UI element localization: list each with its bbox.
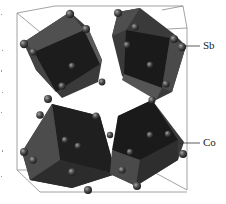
co-label: Co [203,137,216,148]
octahedron-bottom-left [22,104,116,188]
scan-specks [1,14,3,177]
sb-label: Sb [203,40,215,51]
unit-cell-diagram [0,0,226,204]
crystal-structure-figure: Sb Co [0,0,226,204]
